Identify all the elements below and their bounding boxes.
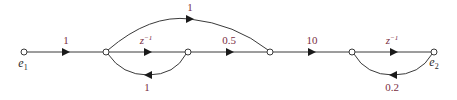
- gain-label-n5-e2: z−1: [385, 34, 399, 46]
- node-2: [103, 49, 109, 55]
- signal-flow-graph: 1 1 z−1 1 0.5 10 z−1 0.2 e1 e2: [0, 0, 457, 100]
- node-e1: [21, 49, 27, 55]
- arrow-right-icon: [390, 48, 398, 56]
- signal-label-e2: e2: [429, 55, 438, 71]
- edge-n3-to-n2-feedback: [108, 54, 186, 75]
- node-4: [267, 49, 273, 55]
- edge-n2-to-n4-arc: [108, 18, 268, 50]
- arrow-right-icon: [186, 15, 194, 23]
- arrow-right-icon: [144, 48, 152, 56]
- node-5: [349, 49, 355, 55]
- arrow-left-icon: [144, 71, 152, 79]
- gain-label-n3-n2-feedback: 1: [144, 81, 150, 93]
- signal-label-e1: e1: [18, 56, 27, 72]
- gain-label-n2-n4-arc: 1: [187, 1, 193, 13]
- arrow-left-icon: [389, 71, 397, 79]
- arrow-right-icon: [62, 48, 70, 56]
- gain-label-e2-n5-feedback: 0.2: [385, 81, 399, 93]
- gain-label-n3-n4: 0.5: [222, 34, 236, 46]
- edge-e2-to-n5-feedback: [354, 54, 432, 75]
- gain-label-e1-n2: 1: [63, 34, 69, 46]
- node-3: [185, 49, 191, 55]
- arrow-right-icon: [226, 48, 234, 56]
- arrow-right-icon: [308, 48, 316, 56]
- gain-label-n4-n5: 10: [307, 34, 319, 46]
- gain-label-n2-n3: z−1: [139, 34, 153, 46]
